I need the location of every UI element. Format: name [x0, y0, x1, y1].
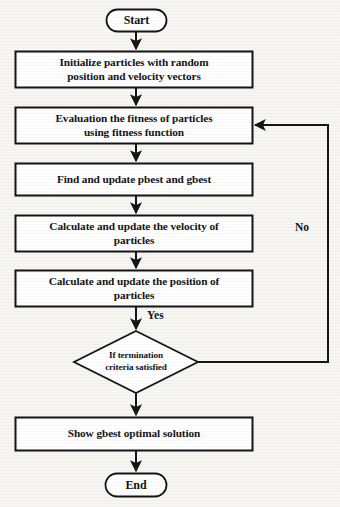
node-shape-update-best — [16, 164, 253, 196]
edge-label-yes: Yes — [147, 309, 164, 321]
node-shape-update-velocity — [16, 216, 253, 252]
node-shape-end — [106, 474, 167, 497]
flowchart-graphics — [0, 0, 340, 507]
flowchart-canvas: Start Initialize particles with random p… — [0, 0, 340, 507]
node-shape-start — [107, 10, 167, 32]
edge-label-no: No — [295, 221, 309, 233]
node-shape-decision — [74, 331, 198, 393]
node-shape-update-position — [16, 271, 253, 307]
node-shape-initialize — [16, 52, 253, 88]
node-shape-evaluate — [16, 108, 253, 144]
node-shape-show-result — [16, 418, 253, 451]
